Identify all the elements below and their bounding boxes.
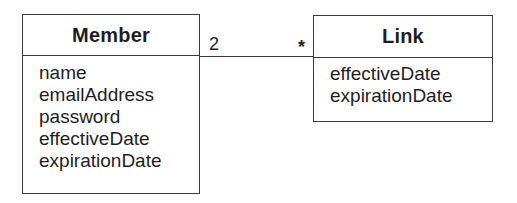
link-attributes: effectiveDate expirationDate <box>314 58 492 121</box>
link-attribute: expirationDate <box>330 85 492 107</box>
member-attribute: password <box>39 106 199 128</box>
member-attributes: name emailAddress password effectiveDate… <box>23 56 199 193</box>
link-class-name: Link <box>314 16 492 58</box>
member-multiplicity: 2 <box>209 35 219 53</box>
association-line <box>199 56 314 57</box>
member-attribute: effectiveDate <box>39 128 199 150</box>
member-attribute: name <box>39 62 199 84</box>
link-multiplicity: * <box>298 38 305 56</box>
link-class-box: Link effectiveDate expirationDate <box>313 15 493 122</box>
member-attribute: emailAddress <box>39 84 199 106</box>
member-class-box: Member name emailAddress password effect… <box>22 14 200 194</box>
link-attribute: effectiveDate <box>330 63 492 85</box>
member-attribute: expirationDate <box>39 150 199 172</box>
member-class-name: Member <box>23 15 199 56</box>
